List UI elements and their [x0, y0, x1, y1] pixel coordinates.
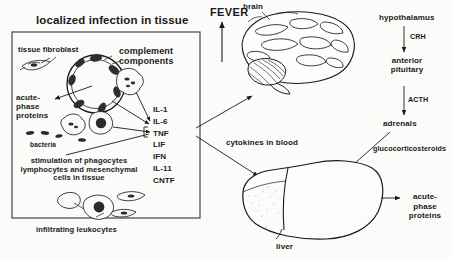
ap-liver-line-3: proteins	[404, 211, 446, 221]
arrow-stimulation-to-cytokines	[66, 134, 149, 155]
fibroblast-cell	[20, 57, 56, 70]
acute-phase-proteins-tissue-label: acute- phase proteins	[16, 94, 48, 121]
brain-illustration	[242, 12, 354, 94]
cytokine-list: IL-1 IL-6 TNF LIF IFN IL-11 CNTF	[153, 104, 175, 187]
macrophage-complement	[116, 68, 143, 94]
infiltrating-leukocytes-label: infiltrating leukocytes	[36, 226, 117, 235]
acute-phase-proteins-liver-label: acute- phase proteins	[404, 192, 446, 221]
liver-label: liver	[276, 243, 293, 252]
glucocorticosteroids-label: glucocorticosteroids	[373, 145, 446, 153]
cytokine-item: LIF	[153, 139, 175, 151]
complement-line-2: components	[119, 56, 174, 66]
cytokine-item: IL-11	[153, 163, 175, 175]
figure-title: localized infection in tissue	[36, 14, 188, 27]
ap-liver-line-1: acute-	[404, 192, 446, 202]
ap-liver-line-2: phase	[404, 202, 446, 212]
liver-illustration	[243, 161, 383, 239]
diagram-artwork	[0, 0, 451, 260]
cytokine-item: IL-6	[153, 116, 175, 128]
arrow-to-acute-phase	[55, 86, 92, 99]
cytokine-item: IL-1	[153, 104, 175, 116]
figure-canvas: localized infection in tissue FEVER brai…	[0, 0, 451, 260]
acth-label: ACTH	[408, 96, 428, 104]
ap-tissue-line-3: proteins	[16, 112, 48, 121]
vessel-ring	[67, 54, 125, 115]
infiltrating-leukocyte-cells	[58, 192, 145, 220]
stimulation-line-3: cells in tissue	[14, 174, 144, 183]
arrow-cytokines-to-brain	[196, 96, 252, 128]
lymphocyte-cell	[89, 112, 113, 135]
complement-components-label: complement components	[119, 46, 174, 66]
bacteria-label: bacteria	[30, 141, 56, 148]
pituitary-line-2: pituitary	[383, 66, 431, 75]
cytokine-item: TNF	[153, 128, 175, 140]
cytokine-item: CNTF	[153, 175, 175, 187]
anterior-pituitary-label: anterior pituitary	[383, 57, 431, 75]
brain-label: brain	[243, 3, 263, 12]
phagocyte-cell	[61, 114, 85, 135]
tissue-fibroblast-label: tissue fibroblast	[18, 46, 78, 55]
arrow-complement-to-cytokines	[136, 92, 150, 121]
arrow-macrophage-to-cytokines	[112, 101, 149, 124]
crh-label: CRH	[410, 33, 426, 41]
cytokines-in-blood-label: cytokines in blood	[226, 139, 298, 148]
hypothalamus-label: hypothalamus	[379, 14, 434, 23]
adrenals-label: adrenals	[383, 120, 417, 129]
cytokine-item: IFN	[153, 151, 175, 163]
stimulation-label: stimulation of phagocytes lymphocytes an…	[14, 157, 144, 183]
complement-line-1: complement	[119, 46, 174, 56]
